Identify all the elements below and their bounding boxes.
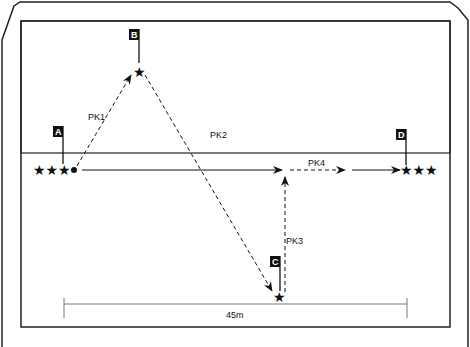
label-pk4: PK4 <box>308 158 325 168</box>
svg-text:C: C <box>272 257 279 267</box>
star-icon-a: ★★★ <box>33 162 71 178</box>
svg-text:B: B <box>131 30 138 40</box>
outer-frame <box>2 2 468 347</box>
scale-label: 45m <box>226 310 244 320</box>
flag-a: A <box>53 126 63 164</box>
svg-text:A: A <box>55 127 62 137</box>
field-border <box>21 21 450 153</box>
flag-c: C <box>270 256 280 291</box>
flag-d: D <box>396 129 406 165</box>
star-icon-c: ★ <box>273 289 286 305</box>
start-dot <box>71 167 77 173</box>
flag-b: B <box>129 29 139 63</box>
svg-text:D: D <box>398 130 405 140</box>
field-rect <box>21 21 450 327</box>
scale-bar: 45m <box>64 298 407 320</box>
path-pk2 <box>145 75 272 291</box>
star-icon-b: ★ <box>133 64 146 80</box>
label-pk1: PK1 <box>88 112 105 122</box>
diagram-canvas: ★★★ ★ ★ ★★★ A B C D PK1 PK2 PK3 PK4 45m <box>0 0 470 347</box>
label-pk3: PK3 <box>286 236 303 246</box>
label-pk2: PK2 <box>210 130 227 140</box>
